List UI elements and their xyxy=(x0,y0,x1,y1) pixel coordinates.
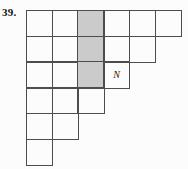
grid-cell xyxy=(103,10,130,37)
shaded-grid-cell xyxy=(77,61,104,88)
grid-cell: N xyxy=(103,61,130,88)
grid-cell xyxy=(129,36,156,63)
grid-cell xyxy=(52,87,79,114)
grid-cell xyxy=(26,10,53,37)
grid-cell xyxy=(26,113,53,140)
grid-cell xyxy=(77,87,104,114)
textbook-figure: 39. N xyxy=(0,0,188,169)
shaded-grid-cell xyxy=(77,10,104,37)
grid-cell xyxy=(52,113,79,140)
shaded-grid-cell xyxy=(77,36,104,63)
grid-cell xyxy=(26,139,53,166)
grid-cell xyxy=(52,61,79,88)
grid-cell xyxy=(52,36,79,63)
grid-cell xyxy=(155,10,182,37)
cell-label-N: N xyxy=(104,62,129,87)
grid-cell xyxy=(129,10,156,37)
problem-number: 39. xyxy=(2,6,17,18)
grid-cell xyxy=(26,61,53,88)
grid-cell xyxy=(52,10,79,37)
grid-cell xyxy=(26,87,53,114)
grid-cell xyxy=(103,36,130,63)
grid-cell xyxy=(26,36,53,63)
